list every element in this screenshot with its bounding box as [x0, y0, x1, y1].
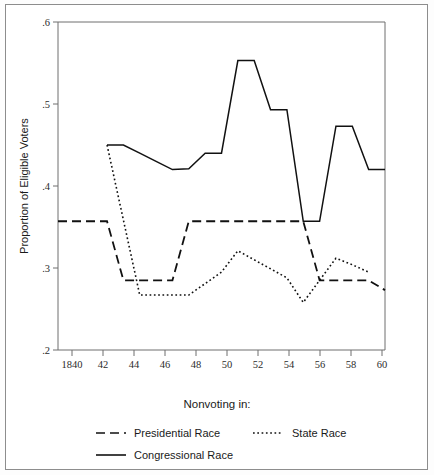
- y-axis-ticks: .6 .5 .4 .3 .2: [42, 17, 58, 356]
- series-line-state-race: [107, 145, 369, 302]
- x-tick-label: 50: [222, 359, 233, 370]
- y-tick-label: .4: [42, 181, 51, 192]
- legend-title: Nonvoting in:: [183, 398, 250, 410]
- chart-plot: .6 .5 .4 .3 .2 Proportion of Eligible Vo…: [0, 0, 434, 475]
- legend-entry-state-race[interactable]: State Race: [253, 427, 346, 439]
- legend-label: State Race: [292, 427, 346, 439]
- x-tick-label: 54: [284, 359, 295, 370]
- y-tick-label: .6: [42, 17, 50, 28]
- x-tick-label: 46: [160, 359, 171, 370]
- legend-entry-presidential-race[interactable]: Presidential Race: [96, 427, 220, 439]
- legend-entry-congressional-race[interactable]: Congressional Race: [96, 449, 233, 461]
- series-line-congressional-race: [107, 61, 385, 222]
- y-tick-label: .3: [42, 263, 50, 274]
- y-axis-title: Proportion of Eligible Voters: [18, 118, 30, 254]
- x-tick-label: 56: [315, 359, 326, 370]
- legend-label: Congressional Race: [134, 449, 233, 461]
- x-tick-label: 42: [98, 359, 109, 370]
- x-tick-label: 58: [346, 359, 357, 370]
- x-tick-label: 48: [191, 359, 202, 370]
- x-tick-label: 60: [377, 359, 388, 370]
- plot-axes: [58, 22, 385, 350]
- data-series-group: [58, 61, 385, 303]
- y-tick-label: .2: [42, 345, 50, 356]
- plot-frame: [58, 22, 385, 350]
- legend-label: Presidential Race: [134, 427, 220, 439]
- x-axis-ticks: 1840 42 44 46 48 50 52 54 56 58 60: [62, 350, 388, 370]
- figure-container: .6 .5 .4 .3 .2 Proportion of Eligible Vo…: [0, 0, 434, 475]
- x-tick-label: 52: [253, 359, 264, 370]
- x-tick-label: 44: [129, 359, 140, 370]
- y-tick-label: .5: [42, 99, 50, 110]
- x-tick-label: 1840: [62, 359, 83, 370]
- series-line-presidential-race: [58, 221, 385, 290]
